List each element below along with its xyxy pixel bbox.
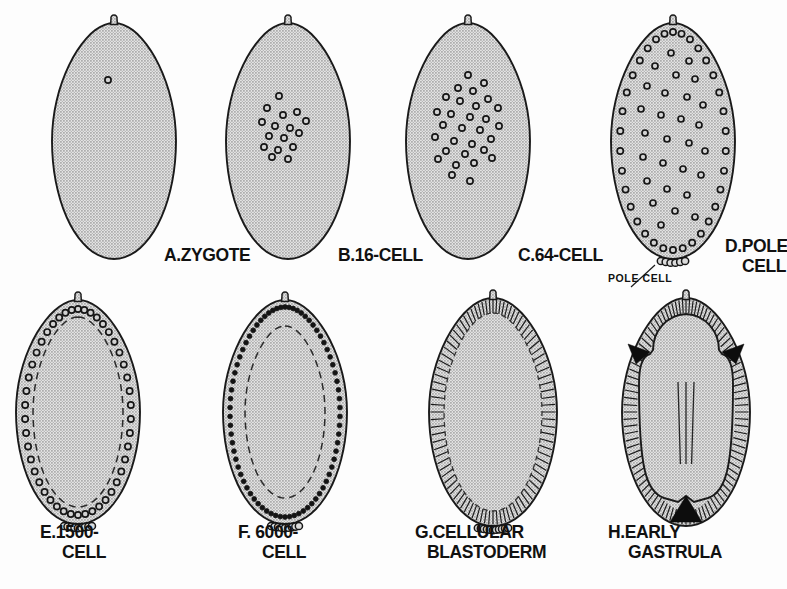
nucleus: [260, 505, 265, 510]
nucleus: [335, 440, 340, 445]
embryo-development-figure: A.ZYGOTEB.16-CELLC.64-CELLD.POLECELLPOLE…: [0, 0, 787, 589]
panel-e-1500-cell: [16, 292, 140, 532]
nucleus: [125, 443, 131, 449]
micropyle-icon: [75, 292, 82, 302]
nucleus: [662, 90, 668, 96]
nucleus: [328, 355, 333, 360]
nucleus: [23, 388, 29, 394]
nucleus: [261, 144, 267, 150]
nucleus: [630, 72, 636, 78]
nucleus: [651, 240, 657, 246]
nucleus: [111, 339, 117, 345]
nucleus: [244, 340, 249, 345]
nucleus: [262, 314, 267, 319]
nucleus: [624, 89, 630, 95]
nucleus: [653, 36, 659, 42]
nucleus: [670, 247, 676, 253]
nucleus: [240, 347, 245, 352]
nucleus: [673, 72, 679, 78]
nucleus: [650, 200, 656, 206]
nucleus: [87, 310, 93, 316]
nucleus: [483, 116, 489, 122]
panel-label-a: A.ZYGOTE: [164, 245, 250, 265]
panel-label-c: C.64-CELL: [518, 245, 604, 265]
nucleus: [252, 497, 257, 502]
nucleus: [114, 479, 120, 485]
nucleus: [338, 405, 343, 410]
nucleus: [82, 511, 88, 517]
nucleus: [269, 154, 275, 160]
nucleus: [459, 125, 465, 131]
micropyle-icon: [282, 292, 289, 302]
nucleus: [280, 112, 286, 118]
nucleus: [313, 497, 318, 502]
nucleus: [434, 109, 440, 115]
nucleus: [238, 472, 243, 477]
nucleus: [622, 186, 628, 192]
nucleus: [723, 148, 729, 154]
nucleus: [660, 160, 666, 166]
nucleus: [337, 423, 342, 428]
nucleus: [47, 497, 53, 503]
panel-d-pole-cell: [611, 15, 735, 287]
nucleus: [32, 468, 38, 474]
nucleus: [716, 89, 722, 95]
striation: [682, 300, 683, 313]
nucleus: [467, 114, 473, 120]
nucleus: [102, 497, 108, 503]
nucleus: [661, 31, 667, 37]
nucleus: [296, 130, 302, 136]
micropyle-icon: [670, 15, 677, 25]
nucleus: [121, 362, 127, 368]
nucleus: [269, 511, 274, 516]
nucleus: [325, 347, 330, 352]
nucleus: [128, 416, 134, 422]
nucleus: [275, 147, 281, 153]
nucleus: [100, 321, 106, 327]
nucleus: [628, 204, 634, 210]
nucleus: [285, 156, 291, 162]
nucleus: [75, 512, 81, 518]
nucleus: [642, 130, 648, 136]
panel-label-d-line2: CELL: [742, 256, 787, 276]
nucleus: [723, 128, 729, 134]
nucleus: [94, 314, 100, 320]
nucleus: [273, 513, 278, 518]
nucleus: [672, 208, 678, 214]
embryo-outline: [223, 300, 347, 524]
nucleus: [336, 387, 341, 392]
nucleus: [687, 36, 693, 42]
nucleus: [455, 85, 461, 91]
nucleus: [721, 168, 727, 174]
nucleus: [296, 511, 301, 516]
panel-label-g: G.CELLULAR: [415, 522, 525, 542]
nucleus: [309, 501, 314, 506]
nucleus: [127, 430, 133, 436]
nucleus: [255, 323, 260, 328]
nucleus: [69, 307, 75, 313]
nucleus: [272, 123, 278, 129]
nucleus: [453, 162, 459, 168]
nucleus: [251, 328, 256, 333]
striation: [689, 300, 690, 313]
nucleus: [231, 379, 236, 384]
nucleus: [680, 166, 686, 172]
nucleus: [702, 148, 708, 154]
nucleus: [41, 489, 47, 495]
nucleus: [706, 218, 712, 224]
nucleus: [127, 388, 133, 394]
nucleus: [266, 133, 272, 139]
nucleus: [696, 122, 702, 128]
nucleus: [712, 204, 718, 210]
nucleus: [241, 479, 246, 484]
nucleus: [314, 328, 319, 333]
nucleus: [333, 370, 338, 375]
nucleus: [469, 141, 475, 147]
nucleus: [686, 140, 692, 146]
nucleus: [670, 29, 676, 35]
nucleus: [50, 321, 56, 327]
nucleus: [247, 334, 252, 339]
nucleus: [695, 45, 701, 51]
nucleus: [720, 108, 726, 114]
nucleus: [660, 245, 666, 251]
